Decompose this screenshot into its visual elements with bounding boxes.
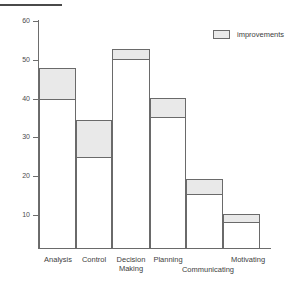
bar-base-planning [150, 117, 186, 249]
bar-base-analysis [39, 99, 76, 249]
chart-legend: improvements [213, 30, 284, 39]
plot-area: 60 50 40 30 20 10 [0, 0, 298, 292]
bar-improvements-decision-making [112, 49, 150, 60]
bar-improvements-motivating [223, 214, 260, 223]
bar-base-control [76, 157, 112, 249]
bar-base-communicating [186, 194, 223, 249]
bar-improvements-control [76, 120, 112, 158]
bar-improvements-planning [150, 98, 186, 118]
legend-swatch-improvements [213, 30, 230, 39]
x-label-planning: Planning [147, 255, 189, 264]
bar-improvements-communicating [186, 179, 223, 195]
bar-base-motivating [223, 222, 260, 249]
legend-label-improvements: improvements [237, 31, 284, 39]
x-label-motivating: Motivating [222, 255, 274, 264]
bar-series-group [0, 0, 298, 292]
x-label-communicating: Communicating [176, 265, 240, 274]
bar-base-decision-making [112, 59, 150, 249]
bar-improvements-analysis [39, 68, 76, 100]
x-label-decision-making: Decision Making [110, 255, 152, 273]
chart-figure: 60 50 40 30 20 10 [0, 0, 298, 292]
